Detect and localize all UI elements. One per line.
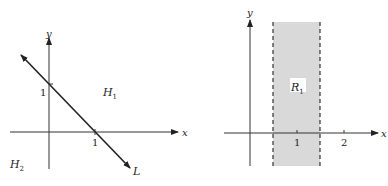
left-y-tick-label: 1 [40, 87, 46, 98]
right-x-axis-label: x [381, 128, 387, 139]
line-l [21, 55, 49, 84]
right-tick-1-label: 1 [294, 137, 300, 148]
right-tick-2-label: 2 [341, 137, 347, 148]
right-y-axis-label: y [246, 7, 253, 18]
line-l-lower [49, 84, 130, 168]
right-figure: y x 1 2 R1 [224, 7, 387, 166]
left-x-tick-label: 1 [92, 137, 98, 148]
region-h2-label: H2 [9, 158, 24, 173]
left-x-axis-label: x [182, 127, 188, 138]
left-y-axis-label: y [45, 28, 52, 39]
left-figure: y x 1 1 L H1 H2 [9, 28, 188, 178]
region-h1-label: H1 [102, 86, 117, 101]
diagram-canvas: y x 1 1 L H1 H2 y x 1 2 R1 [0, 0, 388, 186]
line-l-label: L [132, 165, 140, 178]
